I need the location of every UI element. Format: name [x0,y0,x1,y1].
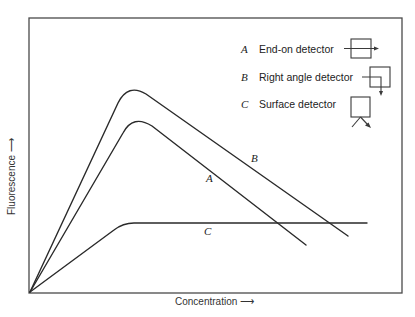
legend: A End-on detector B Right angle detector… [240,39,390,128]
curve-a-end-on [30,121,306,292]
legend-label-a: End-on detector [259,43,334,55]
curve-label-b: B [251,152,258,164]
x-axis-label: Concentration ⟶ [175,296,254,307]
legend-item-a: A End-on detector [240,39,379,58]
legend-label-c: Surface detector [259,98,337,110]
legend-key-c: C [241,98,249,110]
curve-b-right-angle [30,90,348,292]
legend-item-c: C Surface detector [241,97,371,128]
legend-item-b: B Right angle detector [241,67,390,96]
curve-label-a: A [205,172,213,184]
right-angle-detector-icon [362,67,390,96]
end-on-detector-icon [344,39,379,58]
curve-c-surface [30,223,367,292]
legend-key-a: A [240,43,248,55]
surface-detector-icon [351,97,371,128]
curve-label-c: C [204,225,212,237]
legend-key-b: B [241,71,248,83]
legend-label-b: Right angle detector [259,71,353,83]
fluorescence-vs-concentration-diagram: A B C A End-on detector B Right angle de… [0,0,415,317]
y-axis-label: Fluorescence ⟶ [6,138,17,215]
